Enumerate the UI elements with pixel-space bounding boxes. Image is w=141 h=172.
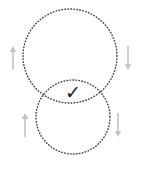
- arrow-bottom-right-head: [115, 131, 121, 137]
- arrow-top-left-icon[interactable]: [10, 46, 16, 70]
- arrow-bottom-right-icon[interactable]: [115, 113, 121, 137]
- arrow-top-left-head: [10, 46, 16, 52]
- arrow-bottom-left-icon[interactable]: [22, 113, 28, 137]
- diagram-canvas: ✓: [0, 0, 141, 172]
- arrow-bottom-left-head: [22, 113, 28, 119]
- arrow-top-right-head: [125, 64, 131, 70]
- venn-diagram: ✓: [0, 0, 141, 172]
- arrow-top-right-icon[interactable]: [125, 46, 131, 70]
- check-mark-icon[interactable]: ✓: [65, 81, 81, 103]
